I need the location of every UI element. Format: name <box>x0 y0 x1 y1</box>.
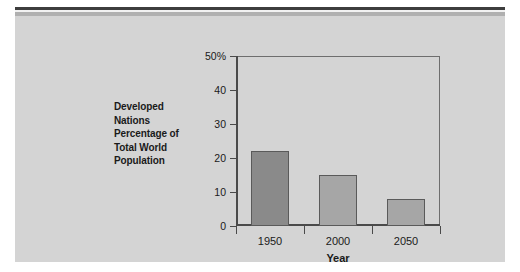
y-axis-tick-label: 20 <box>188 152 226 164</box>
y-axis-tick-label: 10 <box>188 186 226 198</box>
y-axis-tick <box>230 158 236 159</box>
x-axis-tick-label: 2050 <box>394 235 418 247</box>
figure-container: Developed Nations Percentage of Total Wo… <box>0 0 520 272</box>
y-axis-tick <box>230 56 236 57</box>
y-axis-tick-label: 0 <box>188 220 226 232</box>
y-axis-tick <box>230 192 236 193</box>
x-axis-tick-label: 1950 <box>258 235 282 247</box>
y-axis-tick-label: 40 <box>188 84 226 96</box>
y-axis-tick-label: 50% <box>188 50 226 62</box>
x-axis-title: Year <box>236 252 440 264</box>
y-axis-line <box>236 56 238 226</box>
bar-2050 <box>387 199 425 226</box>
x-axis-tick-label: 2000 <box>326 235 350 247</box>
bar-2000 <box>319 175 357 226</box>
y-axis-tick <box>230 90 236 91</box>
x-axis-tick <box>304 226 305 234</box>
x-axis-tick <box>372 226 373 234</box>
chart-panel: Developed Nations Percentage of Total Wo… <box>15 16 505 262</box>
bar-1950 <box>251 151 289 226</box>
y-axis-tick <box>230 124 236 125</box>
x-axis-tick <box>440 226 441 234</box>
y-axis-tick-label: 30 <box>188 118 226 130</box>
x-axis-tick <box>236 226 237 234</box>
y-axis-caption-line-1: Developed <box>114 100 210 114</box>
